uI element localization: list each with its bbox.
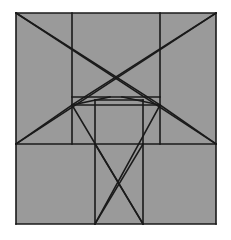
figure-container [0, 0, 231, 240]
geometric-line-figure [0, 0, 231, 240]
outer-square-fill [16, 13, 216, 224]
